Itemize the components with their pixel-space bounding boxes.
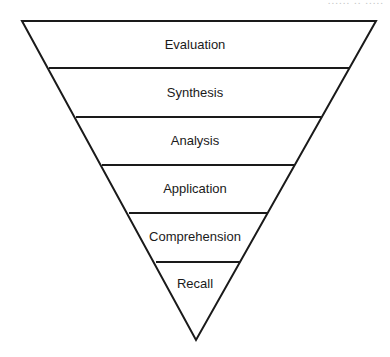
level-label-recall: Recall: [0, 276, 390, 292]
level-label-application: Application: [0, 181, 390, 197]
inverted-pyramid-diagram: [0, 0, 390, 357]
level-label-analysis: Analysis: [0, 133, 390, 149]
level-label-synthesis: Synthesis: [0, 85, 390, 101]
level-label-evaluation: Evaluation: [0, 37, 390, 53]
level-label-comprehension: Comprehension: [0, 229, 390, 245]
